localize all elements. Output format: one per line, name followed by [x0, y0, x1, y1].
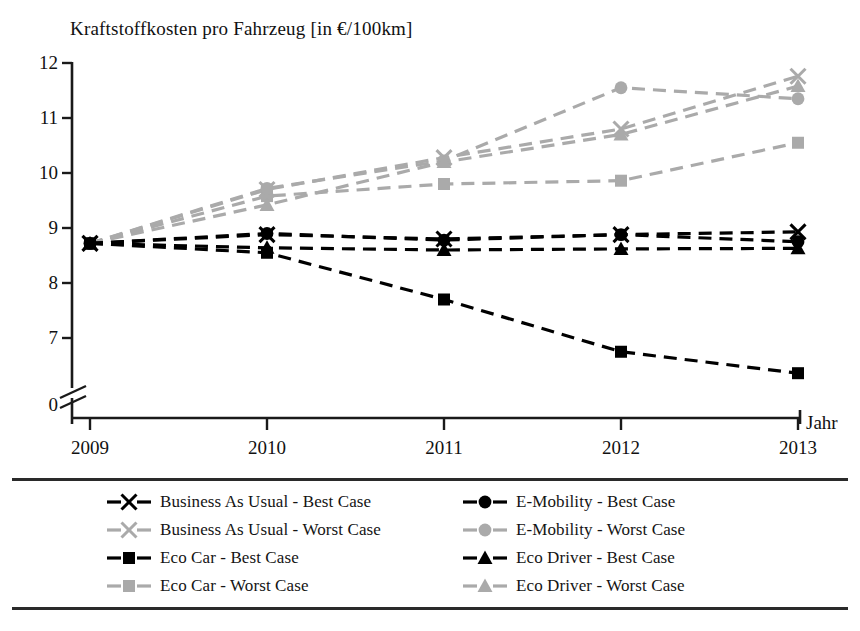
- y-tick-label-9: 9: [24, 218, 58, 237]
- legend-item-label: E-Mobility - Best Case: [516, 492, 675, 512]
- square-marker: [792, 137, 804, 149]
- y-tick-label-8: 8: [24, 273, 58, 292]
- data-series-layer: [83, 69, 806, 380]
- circle-marker: [615, 228, 628, 241]
- x-marker: [122, 495, 137, 510]
- circle-marker: [792, 92, 805, 105]
- square-marker: [792, 367, 804, 379]
- circle-marker: [615, 81, 628, 94]
- square-marker-icon: [106, 548, 152, 568]
- triangle-marker-icon: [462, 576, 508, 596]
- circle-marker-icon: [462, 492, 508, 512]
- legend-item-e-mobility-worst-case[interactable]: E-Mobility - Worst Case: [462, 516, 685, 544]
- x-marker-icon: [106, 492, 152, 512]
- triangle-marker: [478, 579, 493, 593]
- legend-bottom-rule: [12, 607, 848, 610]
- legend-item-label: Eco Car - Worst Case: [160, 576, 309, 596]
- square-marker: [123, 580, 135, 592]
- x-axis-title: Jahr: [806, 412, 838, 434]
- y-tick-label-7: 7: [24, 328, 58, 347]
- square-marker: [615, 175, 627, 187]
- x-marker: [122, 523, 137, 538]
- y-tick-label-0: 0: [24, 395, 58, 414]
- y-tick-label-12: 12: [24, 53, 58, 72]
- legend-item-eco-driver-worst-case[interactable]: Eco Driver - Worst Case: [462, 572, 685, 600]
- x-tick-label-2012: 2012: [576, 438, 666, 457]
- circle-marker: [479, 496, 492, 509]
- legend-column-left: Business As Usual - Best Case Business A…: [106, 488, 381, 600]
- legend-item-label: Eco Car - Best Case: [160, 548, 299, 568]
- square-marker: [123, 552, 135, 564]
- square-marker: [438, 178, 450, 190]
- y-tick-label-10: 10: [24, 163, 58, 182]
- legend-item-label: Business As Usual - Best Case: [160, 492, 371, 512]
- legend-item-business-as-usual-best-case[interactable]: Business As Usual - Best Case: [106, 488, 381, 516]
- legend-column-right: E-Mobility - Best Case E-Mobility - Wors…: [462, 488, 685, 600]
- square-marker: [438, 294, 450, 306]
- legend-item-eco-driver-best-case[interactable]: Eco Driver - Best Case: [462, 544, 685, 572]
- chart-figure: Kraftstoffkosten pro Fahrzeug [in €/100k…: [0, 0, 860, 631]
- legend-item-label: Eco Driver - Worst Case: [516, 576, 685, 596]
- x-tick-label-2010: 2010: [222, 438, 312, 457]
- legend-item-eco-car-worst-case[interactable]: Eco Car - Worst Case: [106, 572, 381, 600]
- legend-item-e-mobility-best-case[interactable]: E-Mobility - Best Case: [462, 488, 685, 516]
- x-tick-label-2011: 2011: [399, 438, 489, 457]
- series-eco-car-worst-case: [84, 137, 804, 250]
- x-axis-ticks: [90, 418, 798, 430]
- circle-marker-icon: [462, 520, 508, 540]
- y-axis-ticks: [62, 63, 72, 338]
- legend-item-label: Eco Driver - Best Case: [516, 548, 675, 568]
- x-marker-icon: [106, 520, 152, 540]
- triangle-marker: [478, 551, 493, 565]
- circle-marker: [261, 227, 274, 240]
- chart-legend: Business As Usual - Best Case Business A…: [0, 470, 860, 615]
- x-tick-label-2009: 2009: [45, 438, 135, 457]
- legend-item-business-as-usual-worst-case[interactable]: Business As Usual - Worst Case: [106, 516, 381, 544]
- square-marker-icon: [106, 576, 152, 596]
- triangle-marker-icon: [462, 548, 508, 568]
- square-marker: [615, 346, 627, 358]
- legend-top-rule: [12, 478, 848, 481]
- legend-item-eco-car-best-case[interactable]: Eco Car - Best Case: [106, 544, 381, 572]
- circle-marker: [479, 524, 492, 537]
- legend-item-label: Business As Usual - Worst Case: [160, 520, 381, 540]
- y-tick-label-11: 11: [24, 108, 58, 127]
- series-eco-car-best-case: [84, 237, 804, 379]
- circle-marker: [261, 182, 274, 195]
- x-tick-label-2013: 2013: [753, 438, 843, 457]
- legend-item-label: E-Mobility - Worst Case: [516, 520, 685, 540]
